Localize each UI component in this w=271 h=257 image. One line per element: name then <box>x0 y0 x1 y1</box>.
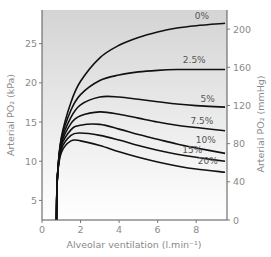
y-left-axis-title: Arterial PO₂ (kPa) <box>5 74 16 156</box>
curve-label: 15% <box>182 145 202 155</box>
x-axis-title: Alveolar ventilation (l.min⁻¹) <box>66 239 201 250</box>
y-left-tick-label: 10 <box>25 156 37 167</box>
y-left-tick-label: 15 <box>25 117 37 128</box>
x-tick-label: 2 <box>78 224 84 235</box>
x-tick-label: 8 <box>193 224 199 235</box>
x-tick-label: 0 <box>39 224 45 235</box>
x-ticks-group: 02468 <box>39 220 199 235</box>
y-left-tick-label: 5 <box>31 195 37 206</box>
chart: 02468 510152025 04080120160200 0%2.5%5%7… <box>0 0 271 257</box>
y-right-tick-label: 40 <box>233 176 245 187</box>
y-right-tick-label: 200 <box>233 24 251 35</box>
y-left-ticks-group: 510152025 <box>25 38 42 206</box>
y-right-ticks-group: 04080120160200 <box>227 24 251 226</box>
y-right-tick-label: 120 <box>233 100 251 111</box>
y-left-tick-label: 25 <box>25 38 37 49</box>
curve-label: 20% <box>198 156 218 166</box>
y-right-tick-label: 160 <box>233 62 251 73</box>
y-right-axis-title: Arterial PO₂ (mmHg) <box>255 75 266 172</box>
curve-label: 7.5% <box>191 116 214 126</box>
curve-label: 0% <box>195 11 210 21</box>
y-right-tick-label: 80 <box>233 138 245 149</box>
curve-label: 2.5% <box>183 55 206 65</box>
y-right-tick-label: 0 <box>233 215 239 226</box>
curve-label: 5% <box>201 94 216 104</box>
curve-label: 10% <box>196 135 216 145</box>
y-left-tick-label: 20 <box>25 77 37 88</box>
x-tick-label: 4 <box>116 224 122 235</box>
x-tick-label: 6 <box>155 224 161 235</box>
